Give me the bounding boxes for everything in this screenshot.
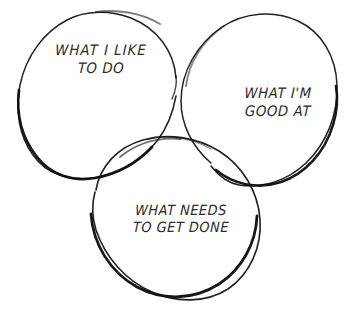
label-good-line-2: GOOD AT [217, 103, 339, 121]
circle-what-i-like-to-do[interactable] [18, 11, 176, 179]
label-like-line-1: WHAT I LIKE [21, 42, 182, 60]
label-needs-line-1: WHAT NEEDS [114, 202, 249, 219]
label-like-line-2: TO DO [21, 60, 182, 78]
label-what-needs-to-get-done: WHAT NEEDS TO GET DONE [108, 202, 254, 236]
venn-diagram-canvas: WHAT I LIKE TO DO WHAT I'M GOOD AT WHAT … [0, 0, 347, 314]
label-what-im-good-at: WHAT I'M GOOD AT [212, 85, 344, 120]
label-what-i-like-to-do: WHAT I LIKE TO DO [14, 42, 188, 77]
label-good-line-1: WHAT I'M [217, 85, 339, 103]
label-needs-line-2: TO GET DONE [114, 219, 249, 236]
